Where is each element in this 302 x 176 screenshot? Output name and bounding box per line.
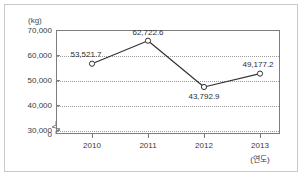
- data-label-2010: 53,521.7: [70, 50, 101, 59]
- data-point-2012: [201, 84, 206, 89]
- data-point-2010: [89, 61, 94, 66]
- data-point-2013: [257, 71, 262, 76]
- series-line: [92, 41, 260, 87]
- data-series-layer: [0, 0, 302, 176]
- data-point-2011: [145, 38, 150, 43]
- chart-figure: (kg) 70,000 60,000 50,000 40,000 30,000 …: [0, 0, 302, 176]
- data-label-2011: 62,722.6: [132, 28, 163, 37]
- data-label-2012: 43,792.9: [188, 92, 219, 101]
- data-label-2013: 49,177.2: [242, 60, 273, 69]
